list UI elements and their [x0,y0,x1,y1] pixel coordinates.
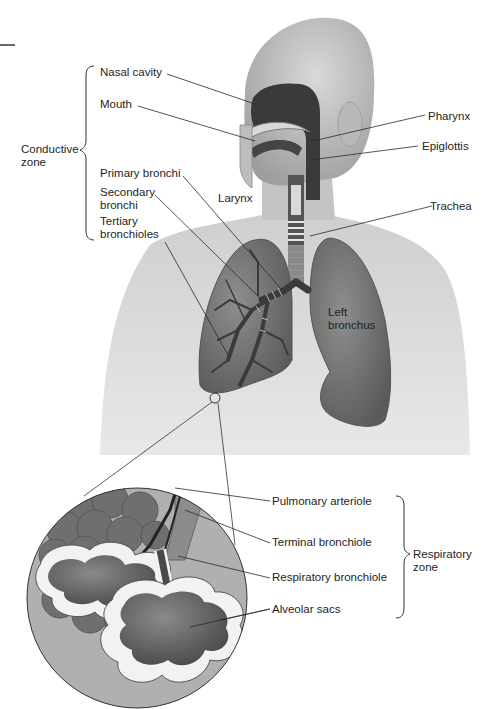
label-pharynx: Pharynx [428,110,470,123]
tertiary-bronchioles-line2: bronchioles [100,228,159,241]
secondary-bronchi-line1: Secondary [100,186,155,199]
label-mouth: Mouth [100,98,132,111]
label-tertiary-bronchioles: Tertiary bronchioles [100,215,159,241]
label-nasal-cavity: Nasal cavity [100,66,162,79]
conductive-zone-line2: zone [21,156,79,169]
label-secondary-bronchi: Secondary bronchi [100,186,155,212]
label-respiratory-zone: Respiratory zone [413,548,472,574]
alveoli-inset [27,478,247,708]
label-pulmonary-arteriole: Pulmonary arteriole [272,495,372,508]
label-left-bronchus: Left bronchus [328,306,375,332]
mouth-shape [240,125,252,188]
conductive-zone-line1: Conductive [21,143,79,156]
ear [338,102,362,146]
left-bronchus-line2: bronchus [328,319,375,332]
label-trachea: Trachea [430,200,472,213]
respiratory-illustration [0,0,488,709]
secondary-bronchi-line2: bronchi [100,199,155,212]
label-conductive-zone: Conductive zone [21,143,79,169]
respiratory-zone-line1: Respiratory [413,548,472,561]
label-respiratory-bronchiole: Respiratory bronchiole [272,571,387,584]
respiratory-zone-brace [396,496,410,618]
respiratory-zone-line2: zone [413,561,472,574]
tertiary-bronchioles-line1: Tertiary [100,215,159,228]
label-primary-bronchi: Primary bronchi [100,167,181,180]
conductive-zone-brace [80,66,94,240]
label-terminal-bronchiole: Terminal bronchiole [272,536,372,549]
label-alveolar-sacs: Alveolar sacs [272,603,340,616]
left-bronchus-line1: Left [328,306,375,319]
label-epiglottis: Epiglottis [422,140,469,153]
label-larynx: Larynx [218,192,253,205]
